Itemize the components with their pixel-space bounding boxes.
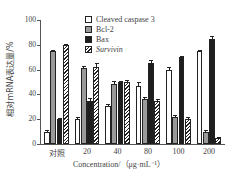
bar [197,51,203,144]
legend-item-survivin: Survivin [85,44,155,54]
bar [124,82,130,144]
bar [209,39,215,144]
error-bar-cap [186,117,190,118]
y-axis-label: 相对mRNA表达量/% [2,24,16,134]
bar [93,67,99,144]
x-tick-label: 40 [114,147,122,156]
bar [118,82,124,144]
legend-swatch [85,16,92,23]
error-bar-cap [112,81,116,82]
bar [63,45,69,144]
y-tick-label: 0 [32,140,36,148]
y-tick [37,144,40,145]
error-bar-cap [106,104,110,105]
x-tick-label: 20 [83,147,91,156]
error-bar-cap [125,80,129,81]
error-bar-cap [143,97,147,98]
error-bar-cap [95,63,99,64]
error-bar-cap [173,115,177,116]
bar [87,101,93,144]
bar [81,68,87,144]
y-axis [40,20,41,144]
legend-swatch [85,26,92,33]
error-bar-cap [180,56,184,57]
bar [203,132,209,144]
x-axis [40,144,225,145]
y-tick [37,45,40,46]
legend-item-bax: Bax [85,34,155,44]
legend: Cleaved caspase 3 Bcl-2 Bax Survivin [85,14,155,54]
bar [57,119,63,144]
y-tick [37,20,40,21]
bar [154,101,160,144]
error-bar-cap [167,67,171,68]
legend-item-bcl-2: Bcl-2 [85,24,155,34]
error-bar-cap [204,130,208,131]
error-bar-cap [217,137,221,138]
bar [50,51,56,144]
bar [215,138,221,144]
bar [179,57,185,144]
bar [142,99,148,144]
bar-chart: 相对mRNA表达量/% 020406080100 对照204080100200 … [0,0,238,182]
y-tick-label: 100 [25,16,36,24]
bar [111,84,117,144]
x-tick-label: 100 [173,147,185,156]
y-tick-label: 80 [29,41,37,49]
error-bar-cap [137,82,141,83]
error-bar-cap [58,118,62,119]
y-tick-label: 20 [29,115,37,123]
bar [44,132,50,144]
error-bar-cap [119,81,123,82]
y-tick-label: 60 [29,66,37,74]
bar [148,63,154,144]
error-bar-cap [88,98,92,99]
error-bar-cap [51,50,55,51]
error-bar-cap [149,60,153,61]
bar [166,70,172,144]
bar [185,119,191,144]
bar [105,106,111,144]
y-tick [37,70,40,71]
legend-swatch [85,46,92,53]
y-tick-label: 40 [29,90,37,98]
x-tick-label: 200 [203,147,215,156]
x-axis-label: Concentration/（μg·mL⁻¹） [0,158,238,169]
error-bar-cap [64,44,68,45]
error-bar-cap [198,50,202,51]
x-tick-label: 80 [144,147,152,156]
error-bar-cap [210,36,214,37]
bar [136,86,142,144]
legend-swatch [85,36,92,43]
error-bar-cap [76,117,80,118]
error-bar-cap [45,130,49,131]
error-bar-cap [82,66,86,67]
error-bar-cap [156,99,160,100]
y-tick [37,94,40,95]
legend-item-cleaved-caspase-3: Cleaved caspase 3 [85,14,155,24]
y-tick [37,119,40,120]
bar [75,119,81,144]
x-tick-label: 对照 [49,147,65,158]
bar [172,117,178,144]
